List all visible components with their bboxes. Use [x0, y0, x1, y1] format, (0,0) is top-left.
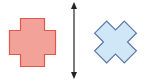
diagram-canvas: [0, 0, 146, 81]
arrowhead-up-icon: [71, 2, 77, 9]
mirror-line-arrow: [71, 2, 77, 79]
red-plus-cross-shape: [10, 19, 56, 67]
arrowhead-down-icon: [71, 72, 77, 79]
blue-x-cross-shape: [86, 12, 145, 71]
diagram-svg: [0, 0, 146, 81]
